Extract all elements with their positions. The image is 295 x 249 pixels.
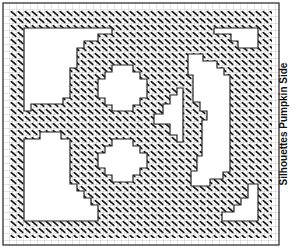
pattern-chart bbox=[0, 0, 295, 249]
cutout-upper-eye bbox=[98, 65, 147, 111]
pattern-title: Silhouettes Pumpkin Side bbox=[278, 63, 289, 186]
cutout-lower-eye bbox=[98, 139, 147, 182]
